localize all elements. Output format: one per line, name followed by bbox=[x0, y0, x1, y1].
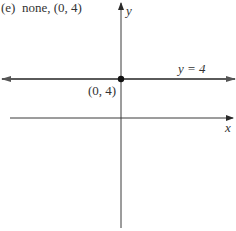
caption: (e) none, (0, 4) bbox=[1, 1, 82, 15]
x-axis-label: x bbox=[225, 121, 231, 135]
caption-part: (e) bbox=[1, 0, 15, 15]
point-label: (0, 4) bbox=[88, 84, 116, 98]
caption-text: none, (0, 4) bbox=[22, 0, 82, 15]
line-label: y = 4 bbox=[178, 62, 206, 76]
y-axis-label: y bbox=[126, 4, 132, 18]
graph-figure: (e) none, (0, 4) y y = 4 (0, 4) x bbox=[0, 0, 236, 231]
coordinate-plane bbox=[0, 0, 236, 231]
point-0-4 bbox=[118, 76, 124, 82]
